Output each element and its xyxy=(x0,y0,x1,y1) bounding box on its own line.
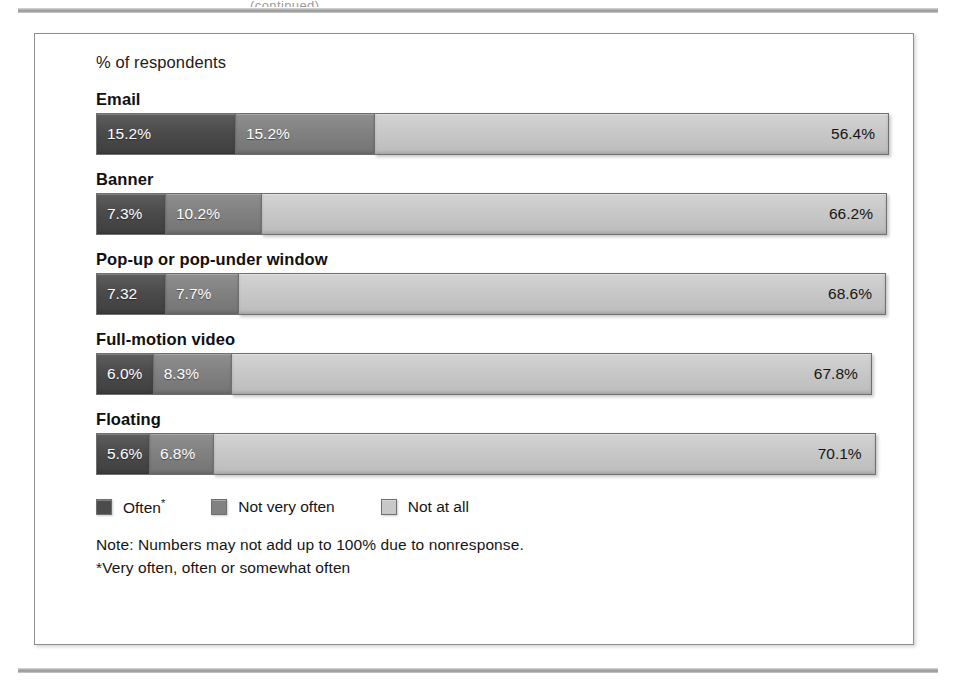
bar-track: 15.2%15.2%56.4% xyxy=(96,113,889,155)
clipped-header-text: (continued) xyxy=(250,0,710,7)
bar-segment-notveryoften[interactable]: 6.8% xyxy=(149,433,213,475)
bar-category-label: Email xyxy=(96,90,889,109)
legend-swatch-icon xyxy=(381,499,397,515)
bar-track: 7.3%10.2%66.2% xyxy=(96,193,889,235)
chart-figure: % of respondents Email15.2%15.2%56.4%Ban… xyxy=(34,33,914,645)
bar-segment-value: 8.3% xyxy=(164,365,199,383)
bar-category-label: Pop-up or pop-under window xyxy=(96,250,889,269)
bar-segment-value: 7.3% xyxy=(107,205,142,223)
bar-group: Email15.2%15.2%56.4% xyxy=(96,90,889,155)
bar-segment-value: 68.6% xyxy=(828,285,872,303)
legend-label-text: Often xyxy=(123,499,161,516)
bar-segment-value: 70.1% xyxy=(818,445,862,463)
bar-category-label: Floating xyxy=(96,410,889,429)
legend-swatch-icon xyxy=(96,499,112,515)
bar-group: Floating5.6%6.8%70.1% xyxy=(96,410,889,475)
bar-segment-value: 15.2% xyxy=(246,125,290,143)
bar-segment-value: 67.8% xyxy=(814,365,858,383)
bar-track: 7.327.7%68.6% xyxy=(96,273,889,315)
legend-item-not-very-often[interactable]: Not very often xyxy=(211,498,335,516)
legend-label-text: Not very often xyxy=(238,498,335,515)
note-line-1: Note: Numbers may not add up to 100% due… xyxy=(96,533,889,556)
bar-track: 6.0%8.3%67.8% xyxy=(96,353,889,395)
chart-legend: Often*Not very oftenNot at all xyxy=(96,497,889,517)
bar-segment-often[interactable]: 5.6% xyxy=(96,433,149,475)
legend-label: Not very often xyxy=(238,498,335,516)
bar-segment-notveryoften[interactable]: 15.2% xyxy=(235,113,374,155)
bar-group: Full-motion video6.0%8.3%67.8% xyxy=(96,330,889,395)
legend-item-not-at-all[interactable]: Not at all xyxy=(381,498,469,516)
bar-segment-value: 7.32 xyxy=(107,285,137,303)
bar-segment-value: 56.4% xyxy=(831,125,875,143)
bar-segment-notatall[interactable]: 67.8% xyxy=(231,353,872,395)
bar-segment-often[interactable]: 7.3% xyxy=(96,193,165,235)
bar-segment-often[interactable]: 6.0% xyxy=(96,353,153,395)
bar-group: Banner7.3%10.2%66.2% xyxy=(96,170,889,235)
bar-segment-value: 6.8% xyxy=(160,445,195,463)
bar-segment-notatall[interactable]: 68.6% xyxy=(238,273,886,315)
bar-segment-value: 6.0% xyxy=(107,365,142,383)
bar-chart: Email15.2%15.2%56.4%Banner7.3%10.2%66.2%… xyxy=(96,90,889,475)
legend-label-text: Not at all xyxy=(408,498,469,515)
bar-segment-often[interactable]: 7.32 xyxy=(96,273,165,315)
bar-segment-value: 66.2% xyxy=(829,205,873,223)
note-line-2: *Very often, often or somewhat often xyxy=(96,556,889,579)
legend-footnote-marker: * xyxy=(161,497,165,509)
bar-segment-value: 5.6% xyxy=(107,445,142,463)
bar-segment-notatall[interactable]: 66.2% xyxy=(261,193,887,235)
bar-segment-notatall[interactable]: 56.4% xyxy=(374,113,889,155)
bar-segment-notveryoften[interactable]: 7.7% xyxy=(165,273,238,315)
legend-label: Not at all xyxy=(408,498,469,516)
bar-track: 5.6%6.8%70.1% xyxy=(96,433,889,475)
legend-label: Often* xyxy=(123,497,165,517)
page-rule-bottom xyxy=(18,668,938,673)
bar-segment-notveryoften[interactable]: 10.2% xyxy=(165,193,261,235)
page-rule-top xyxy=(18,8,938,13)
chart-inner: % of respondents Email15.2%15.2%56.4%Ban… xyxy=(96,53,889,634)
bar-group: Pop-up or pop-under window7.327.7%68.6% xyxy=(96,250,889,315)
bar-segment-notveryoften[interactable]: 8.3% xyxy=(153,353,231,395)
bar-segment-notatall[interactable]: 70.1% xyxy=(213,433,875,475)
bar-segment-value: 15.2% xyxy=(107,125,151,143)
legend-item-often[interactable]: Often* xyxy=(96,497,165,517)
bar-segment-value: 7.7% xyxy=(176,285,211,303)
axis-title: % of respondents xyxy=(96,53,889,72)
bar-segment-often[interactable]: 15.2% xyxy=(96,113,235,155)
bar-category-label: Full-motion video xyxy=(96,330,889,349)
bar-category-label: Banner xyxy=(96,170,889,189)
bar-segment-value: 10.2% xyxy=(176,205,220,223)
legend-swatch-icon xyxy=(211,499,227,515)
